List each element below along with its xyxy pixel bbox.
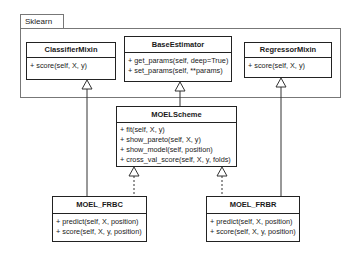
class-moel-scheme: MOELScheme + fit(self, X, y) + show_pare…: [116, 106, 237, 167]
class-name: MOELScheme: [117, 107, 236, 123]
class-moel-frbc: MOEL_FRBC + predict(self, X, position) +…: [52, 196, 147, 242]
class-name: BaseEstimator: [125, 37, 231, 53]
method: + get_params(self, deep=True): [128, 56, 228, 66]
inherit-arrow-classifier-icon: [82, 80, 92, 89]
method: + predict(self, X, position): [56, 217, 143, 227]
class-base-estimator: BaseEstimator + get_params(self, deep=Tr…: [124, 36, 232, 82]
method: + show_model(self, position): [120, 145, 233, 155]
method: + score(self, X, y): [30, 61, 112, 71]
realize-arrow-frbr-icon: [217, 167, 227, 176]
realize-arrow-frbc-icon: [129, 167, 139, 176]
method: + score(self, X, y, position): [56, 227, 143, 237]
inherit-arrow-regressor-icon: [276, 78, 286, 87]
class-name: MOEL_FRBC: [53, 197, 146, 214]
method: + score(self, X, y): [248, 61, 328, 71]
method: + score(self, X, y, position): [210, 227, 296, 237]
class-regressor-mixin: RegressorMixin + score(self, X, y): [244, 42, 332, 78]
class-moel-frbr: MOEL_FRBR + predict(self, X, position) +…: [206, 196, 300, 242]
method: + predict(self, X, position): [210, 217, 296, 227]
method: + set_params(self, **params): [128, 66, 228, 76]
method: + cross_val_score(self, X, y, folds): [120, 155, 233, 165]
class-name: RegressorMixin: [245, 43, 331, 58]
class-name: ClassifierMixin: [27, 43, 115, 58]
method: + show_pareto(self, X, y): [120, 135, 233, 145]
method: + fit(self, X, y): [120, 125, 233, 135]
inherit-arrow-base-icon: [175, 82, 185, 91]
class-classifier-mixin: ClassifierMixin + score(self, X, y): [26, 42, 116, 80]
class-name: MOEL_FRBR: [207, 197, 299, 214]
